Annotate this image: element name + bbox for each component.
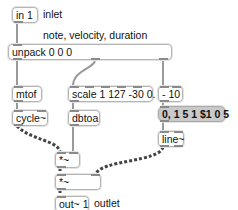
object-label: *~: [59, 154, 69, 166]
comment-inlet: inlet: [43, 8, 62, 20]
object-label: mtof: [16, 88, 36, 100]
inlet-port[interactable]: [91, 174, 100, 176]
cord-line-mult2: [96, 147, 163, 174]
inlet-port[interactable]: [172, 86, 181, 88]
object-minus-10[interactable]: - 10: [158, 86, 183, 102]
message-label: 0, 1 5 1 $1 0 5: [162, 108, 229, 120]
outlet-port[interactable]: [14, 21, 23, 23]
outlet-port[interactable]: [57, 166, 66, 168]
inlet-port[interactable]: [160, 131, 169, 133]
outlet-port[interactable]: [14, 100, 23, 102]
inlet-port[interactable]: [69, 152, 78, 154]
object-multiply-signal-2[interactable]: *~: [55, 174, 101, 190]
object-in-1[interactable]: in 1: [12, 7, 38, 23]
inlet-port[interactable]: [57, 174, 66, 176]
outlet-port[interactable]: [13, 58, 22, 60]
object-multiply-signal-1[interactable]: *~: [55, 152, 80, 168]
object-unpack[interactable]: unpack 0 0 0: [8, 44, 172, 60]
object-line[interactable]: line~: [158, 131, 184, 147]
cord-cycle-mult1: [17, 126, 60, 152]
outlet-port[interactable]: [14, 124, 23, 126]
object-out-1[interactable]: out~ 1: [55, 196, 89, 210]
outlet-port[interactable]: [70, 124, 79, 126]
inlet-port[interactable]: [70, 110, 79, 112]
object-label: *~: [59, 176, 69, 188]
outlet-port[interactable]: [174, 145, 183, 147]
inlet-port[interactable]: [85, 86, 94, 88]
object-label: dbtoa: [72, 112, 98, 124]
inlet-port[interactable]: [160, 106, 169, 108]
object-label: - 10: [162, 88, 180, 100]
comment-note-velocity-duration: note, velocity, duration: [43, 29, 147, 41]
outlet-port[interactable]: [159, 58, 168, 60]
patcher-canvas[interactable]: in 1 inlet note, velocity, duration unpa…: [0, 0, 238, 210]
inlet-port[interactable]: [14, 110, 23, 112]
object-label: out~ 1: [59, 198, 89, 210]
outlet-port[interactable]: [160, 100, 169, 102]
object-scale[interactable]: scale 1 127 -30 0.: [68, 86, 153, 102]
inlet-port[interactable]: [57, 196, 66, 198]
outlet-port[interactable]: [70, 100, 79, 102]
object-label: in 1: [16, 9, 33, 21]
outlet-port[interactable]: [57, 188, 66, 190]
inlet-port[interactable]: [101, 86, 110, 88]
cord-unpack-scale: [73, 60, 95, 86]
inlet-port[interactable]: [57, 152, 66, 154]
object-label: unpack 0 0 0: [12, 46, 72, 58]
outlet-port[interactable]: [160, 145, 169, 147]
object-label: line~: [162, 133, 184, 145]
inlet-port[interactable]: [37, 110, 46, 112]
message-box[interactable]: 0, 1 5 1 $1 0 5: [158, 106, 226, 122]
inlet-port[interactable]: [14, 86, 23, 88]
object-cycle[interactable]: cycle~: [12, 110, 48, 126]
comment-outlet: outlet: [94, 197, 120, 209]
inlet-port[interactable]: [160, 86, 169, 88]
object-dbtoa[interactable]: dbtoa: [68, 110, 100, 126]
object-label: scale 1 127 -30 0.: [72, 88, 155, 100]
inlet-port[interactable]: [117, 86, 126, 88]
outlet-port[interactable]: [91, 58, 100, 60]
outlet-port[interactable]: [160, 120, 169, 122]
object-mtof[interactable]: mtof: [12, 86, 42, 102]
inlet-port[interactable]: [133, 86, 142, 88]
inlet-port[interactable]: [174, 131, 183, 133]
inlet-port[interactable]: [13, 44, 22, 46]
object-label: cycle~: [16, 112, 46, 124]
inlet-port[interactable]: [70, 86, 79, 88]
